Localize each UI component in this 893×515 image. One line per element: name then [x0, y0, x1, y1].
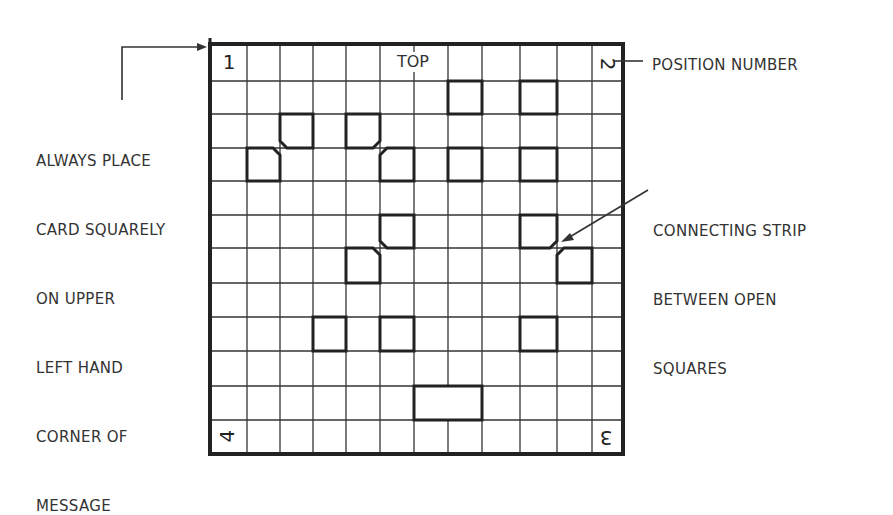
note-line: MESSAGE	[36, 495, 165, 515]
open-square	[557, 248, 592, 283]
open-square	[247, 148, 280, 181]
open-square	[346, 248, 380, 283]
open-square	[520, 215, 557, 248]
connecting-strip-note: CONNECTING STRIP BETWEEN OPEN SQUARES	[653, 174, 806, 404]
open-square	[520, 148, 557, 181]
note-line: CONNECTING STRIP	[653, 220, 806, 243]
note-line: CARD SQUARELY	[36, 219, 165, 242]
position-number-4: 4	[217, 424, 241, 448]
open-square	[313, 317, 346, 351]
open-square	[520, 81, 557, 114]
note-line: LEFT HAND	[36, 357, 165, 380]
note-line: SQUARES	[653, 358, 806, 381]
open-square	[448, 148, 482, 181]
open-square	[448, 81, 482, 114]
placement-instruction: ALWAYS PLACE CARD SQUARELY ON UPPER LEFT…	[36, 104, 165, 515]
open-square	[380, 148, 414, 181]
position-number-label: POSITION NUMBER	[652, 54, 798, 77]
open-square	[380, 317, 414, 351]
open-square	[380, 215, 414, 248]
open-square	[520, 317, 557, 351]
note-line: ON UPPER	[36, 288, 165, 311]
open-square	[346, 114, 380, 148]
placement-arrowhead-icon	[197, 43, 207, 51]
position-number-3: 3	[594, 424, 618, 448]
note-line: BETWEEN OPEN	[653, 289, 806, 312]
open-square	[414, 386, 482, 420]
top-label: TOP	[395, 52, 431, 72]
open-square	[280, 114, 313, 148]
position-number-1: 1	[217, 52, 241, 76]
strip-arrow	[568, 190, 648, 238]
strip-arrowhead-icon	[561, 233, 574, 242]
note-line: CORNER OF	[36, 426, 165, 449]
placement-arrow	[122, 47, 200, 100]
note-line: ALWAYS PLACE	[36, 150, 165, 173]
position-number-2: 2	[594, 52, 618, 76]
open-squares	[247, 81, 592, 420]
